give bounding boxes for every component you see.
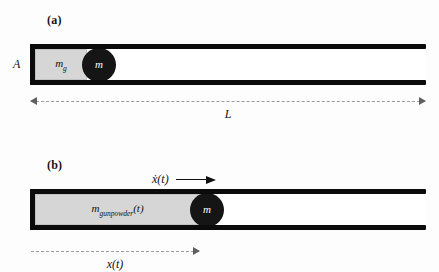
barrel-top-wall-a — [30, 44, 426, 49]
cross-section-area-label: A — [13, 57, 20, 72]
barrel-bottom-wall-b — [30, 225, 426, 230]
arrow-right-icon — [419, 97, 426, 105]
gunpowder-charge-a: mg — [35, 49, 87, 80]
panel-b-label: (b) — [47, 158, 62, 173]
gunpowder-charge-b-subscript: gunpowder — [99, 208, 133, 217]
projectile-b-label: m — [203, 204, 211, 215]
gunpowder-charge-a-subscript: g — [63, 63, 67, 72]
barrel-length-caption: L — [225, 107, 232, 122]
projectile-a: m — [82, 48, 116, 82]
arrow-head — [206, 176, 216, 184]
projectile-b: m — [190, 193, 224, 227]
dimension-line-x — [31, 251, 199, 252]
projectile-a-label: m — [95, 59, 103, 70]
barrel-breech-b — [30, 189, 35, 230]
projectile-position-dimension: x(t) — [31, 247, 199, 256]
gunpowder-charge-a-label: mg — [36, 57, 86, 72]
panel-a-label: (a) — [47, 13, 62, 28]
dimension-line-L — [31, 101, 425, 102]
barrel-top-wall-b — [30, 189, 426, 194]
gun-barrel-physics-figure: (a) A mg m L (b) ẋ(t) mgunpowder(t) — [0, 0, 439, 272]
arrow-shaft — [176, 179, 207, 181]
velocity-label: ẋ(t) — [152, 172, 169, 187]
barrel-panel-b: mgunpowder(t) m — [30, 189, 426, 230]
velocity-annotation: ẋ(t) — [152, 172, 216, 187]
barrel-breech-a — [30, 44, 35, 85]
projectile-position-caption: x(t) — [107, 257, 124, 272]
gunpowder-charge-b: mgunpowder(t) — [35, 194, 200, 225]
gunpowder-charge-a-symbol: m — [55, 57, 63, 69]
barrel-bottom-wall-a — [30, 80, 426, 85]
arrow-left-icon — [30, 97, 37, 105]
right-arrow-icon — [176, 176, 216, 184]
gunpowder-charge-b-argument: (t) — [133, 202, 143, 214]
barrel-panel-a: mg m — [30, 44, 426, 85]
gunpowder-charge-b-label: mgunpowder(t) — [36, 202, 199, 217]
arrow-right-icon — [193, 247, 200, 255]
barrel-length-dimension: L — [31, 97, 425, 106]
